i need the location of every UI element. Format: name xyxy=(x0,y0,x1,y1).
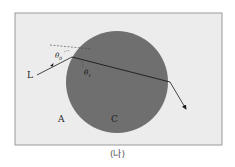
region-a-label: A xyxy=(57,114,65,124)
refraction-diagram: θ0 θ1 L A C xyxy=(0,0,235,167)
figure-caption: (나) xyxy=(0,147,235,160)
region-c-label: C xyxy=(111,114,118,124)
light-label: L xyxy=(27,70,33,80)
